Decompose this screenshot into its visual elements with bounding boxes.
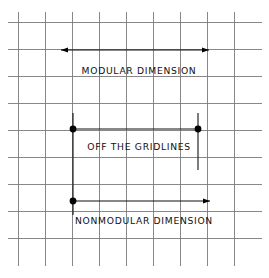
modular-dimension-drawing: MODULAR DIMENSIONOFF THE GRIDLINESNONMOD… bbox=[0, 0, 269, 278]
dimension-arrow-start-modular bbox=[61, 47, 68, 52]
dimension-dot-end-off-the-gridlines bbox=[195, 126, 202, 133]
dimension-arrow-end-nonmodular bbox=[203, 198, 210, 203]
dimension-dot-start-nonmodular bbox=[70, 198, 77, 205]
dimension-dot-start-off-the-gridlines bbox=[70, 126, 77, 133]
dimension-label-modular: MODULAR DIMENSION bbox=[82, 65, 197, 76]
diagram-canvas: MODULAR DIMENSIONOFF THE GRIDLINESNONMOD… bbox=[0, 0, 269, 278]
dimension-arrow-end-modular bbox=[202, 47, 209, 52]
dimension-labels: MODULAR DIMENSIONOFF THE GRIDLINESNONMOD… bbox=[75, 65, 213, 226]
dimension-label-nonmodular: NONMODULAR DIMENSION bbox=[75, 215, 213, 226]
dimension-label-off-the-gridlines: OFF THE GRIDLINES bbox=[87, 141, 191, 152]
